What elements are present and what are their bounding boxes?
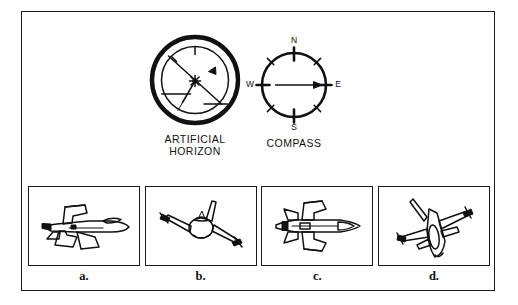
compass-label-north: N [291, 35, 297, 45]
option-d[interactable]: d. [378, 186, 490, 286]
compass-caption: COMPASS [267, 138, 322, 150]
artificial-horizon-caption-line2: HORIZON [165, 146, 226, 158]
options-row: a. [28, 186, 490, 286]
artificial-horizon-caption-line1: ARTIFICIAL [165, 134, 226, 146]
option-a-label: a. [79, 269, 88, 283]
compass-label-west: W [246, 79, 254, 89]
aircraft-three-quarter-banked [379, 187, 489, 265]
artificial-horizon-center-marker [190, 76, 201, 87]
figure-root: ARTIFICIAL HORIZON [0, 0, 518, 305]
option-b[interactable]: b. [145, 186, 257, 286]
option-c-label: c. [313, 269, 322, 283]
option-c-box[interactable] [261, 186, 373, 266]
compass-label-south: S [291, 122, 297, 132]
option-d-label: d. [429, 269, 439, 283]
option-a[interactable]: a. [28, 186, 140, 286]
option-c[interactable]: c. [261, 186, 373, 286]
instrument-compass: N S W E COMPASS [244, 32, 344, 150]
compass-caption-line1: COMPASS [267, 138, 322, 150]
option-a-box[interactable] [28, 186, 140, 266]
option-b-label: b. [196, 269, 206, 283]
aircraft-side-profile [29, 187, 139, 265]
compass-dial: N S W E [244, 32, 344, 132]
instrument-artificial-horizon: ARTIFICIAL HORIZON [147, 32, 243, 157]
artificial-horizon-dial [147, 32, 243, 128]
compass-label-east: E [335, 79, 341, 89]
figure-outer-frame: ARTIFICIAL HORIZON [21, 11, 495, 291]
instruments-row: ARTIFICIAL HORIZON [22, 12, 496, 178]
aircraft-front-banked [146, 187, 256, 265]
option-d-box[interactable] [378, 186, 490, 266]
aircraft-top-plan [262, 187, 372, 265]
option-b-box[interactable] [145, 186, 257, 266]
artificial-horizon-caption: ARTIFICIAL HORIZON [165, 134, 226, 157]
